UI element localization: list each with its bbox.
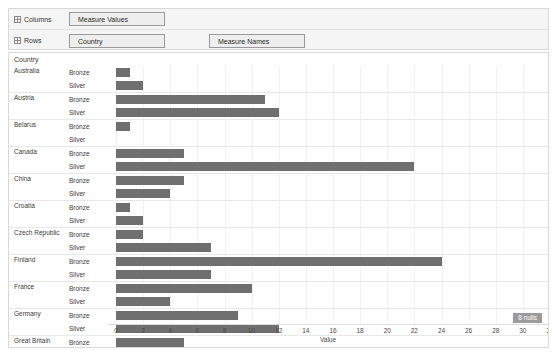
table-row[interactable]: AustraliaBronze xyxy=(9,66,548,79)
x-axis-tick: 26 xyxy=(465,327,472,334)
bar-mark[interactable] xyxy=(116,257,442,266)
bar-mark[interactable] xyxy=(116,297,170,306)
row-header-country[interactable]: Australia xyxy=(14,67,62,75)
row-header-measure[interactable]: Bronze xyxy=(69,258,105,265)
bar-cell xyxy=(108,282,548,295)
bar-cell xyxy=(108,106,548,119)
table-row[interactable]: Silver xyxy=(9,160,548,173)
bar-mark[interactable] xyxy=(116,162,414,171)
table-row[interactable]: Silver xyxy=(9,295,548,308)
row-header-measure[interactable]: Bronze xyxy=(69,231,105,238)
rows-shelf[interactable]: Rows Country Measure Names xyxy=(9,30,548,51)
table-row[interactable]: CanadaBronze xyxy=(9,147,548,160)
row-header-country[interactable]: Croatia xyxy=(14,202,62,210)
table-row[interactable]: Silver xyxy=(9,106,548,119)
table-row[interactable]: Silver xyxy=(9,241,548,254)
bar-cell xyxy=(108,147,548,160)
bar-mark[interactable] xyxy=(116,149,184,158)
x-axis-tick: 24 xyxy=(438,327,445,334)
bar-mark[interactable] xyxy=(116,284,252,293)
x-axis-tick: 12 xyxy=(275,327,282,334)
table-row[interactable]: Silver xyxy=(9,79,548,92)
x-axis-tick: 28 xyxy=(492,327,499,334)
country-group: CroatiaBronzeSilver xyxy=(9,201,548,228)
table-row[interactable]: CroatiaBronze xyxy=(9,201,548,214)
row-header-country[interactable]: France xyxy=(14,283,62,291)
pill-measure-values[interactable]: Measure Values xyxy=(69,12,165,26)
bar-mark[interactable] xyxy=(116,270,211,279)
x-axis-tick: 14 xyxy=(302,327,309,334)
bar-cell xyxy=(108,79,548,92)
bar-mark[interactable] xyxy=(116,122,130,131)
bar-cell xyxy=(108,187,548,200)
row-header-country[interactable]: Great Britain xyxy=(14,337,62,345)
pill-country[interactable]: Country xyxy=(69,34,165,48)
table-row[interactable]: ChinaBronze xyxy=(9,174,548,187)
table-row[interactable]: Silver xyxy=(9,268,548,281)
row-header-measure[interactable]: Bronze xyxy=(69,69,105,76)
table-row[interactable]: FranceBronze xyxy=(9,282,548,295)
bar-cell xyxy=(108,214,548,227)
country-group: CanadaBronzeSilver xyxy=(9,147,548,174)
row-header-measure[interactable]: Silver xyxy=(69,109,105,116)
country-group: ChinaBronzeSilver xyxy=(9,174,548,201)
bar-mark[interactable] xyxy=(116,216,143,225)
row-header-country[interactable]: Austria xyxy=(14,94,62,102)
table-row[interactable]: Silver xyxy=(9,133,548,146)
bar-mark[interactable] xyxy=(116,68,130,77)
bar-cell xyxy=(108,174,548,187)
x-axis-tick: 4 xyxy=(168,327,172,334)
row-header-measure[interactable]: Bronze xyxy=(69,96,105,103)
row-header-measure[interactable]: Silver xyxy=(69,298,105,305)
bar-mark[interactable] xyxy=(116,108,279,117)
bar-mark[interactable] xyxy=(116,95,265,104)
rows-shelf-text: Rows xyxy=(24,37,42,44)
x-axis-tick: 16 xyxy=(329,327,336,334)
row-header-measure[interactable]: Silver xyxy=(69,325,105,332)
status-badge-nulls[interactable]: 8 nulls xyxy=(513,313,542,323)
x-axis-tick: 32 xyxy=(546,327,549,334)
pill-measure-names[interactable]: Measure Names xyxy=(209,34,305,48)
table-row[interactable]: AustriaBronze xyxy=(9,93,548,106)
row-header-measure[interactable]: Silver xyxy=(69,244,105,251)
row-header-measure[interactable]: Silver xyxy=(69,217,105,224)
columns-shelf[interactable]: Columns Measure Values xyxy=(9,9,548,30)
row-header-country[interactable]: Finland xyxy=(14,256,62,264)
bar-mark[interactable] xyxy=(116,81,143,90)
table-row[interactable]: GermanyBronze xyxy=(9,309,548,322)
row-header-measure[interactable]: Bronze xyxy=(69,177,105,184)
row-header-measure[interactable]: Bronze xyxy=(69,204,105,211)
table-row[interactable]: FinlandBronze xyxy=(9,255,548,268)
country-group: FinlandBronzeSilver xyxy=(9,255,548,282)
bar-mark[interactable] xyxy=(116,176,184,185)
row-header-measure[interactable]: Bronze xyxy=(69,285,105,292)
bar-mark[interactable] xyxy=(116,243,211,252)
row-header-measure[interactable]: Bronze xyxy=(69,123,105,130)
x-axis-tick: 0 xyxy=(114,327,118,334)
country-group: AustraliaBronzeSilver xyxy=(9,66,548,93)
row-header-measure[interactable]: Silver xyxy=(69,163,105,170)
bar-mark[interactable] xyxy=(116,311,238,320)
row-header-measure[interactable]: Silver xyxy=(69,190,105,197)
row-header-country[interactable]: Belarus xyxy=(14,121,62,129)
row-header-measure[interactable]: Silver xyxy=(69,271,105,278)
row-header-measure[interactable]: Silver xyxy=(69,82,105,89)
country-group: AustriaBronzeSilver xyxy=(9,93,548,120)
row-header-country[interactable]: Czech Republic xyxy=(14,229,62,237)
row-header-country[interactable]: China xyxy=(14,175,62,183)
bar-mark[interactable] xyxy=(116,230,143,239)
bar-mark[interactable] xyxy=(116,203,130,212)
bar-cell xyxy=(108,268,548,281)
row-header-measure[interactable]: Silver xyxy=(69,136,105,143)
row-header-measure[interactable]: Bronze xyxy=(69,339,105,346)
row-header-measure[interactable]: Bronze xyxy=(69,312,105,319)
x-axis-tick: 8 xyxy=(223,327,227,334)
table-row[interactable]: Silver xyxy=(9,214,548,227)
row-header-country[interactable]: Germany xyxy=(14,310,62,318)
table-row[interactable]: Czech RepublicBronze xyxy=(9,228,548,241)
table-row[interactable]: BelarusBronze xyxy=(9,120,548,133)
bar-mark[interactable] xyxy=(116,189,170,198)
row-header-country[interactable]: Canada xyxy=(14,148,62,156)
row-header-measure[interactable]: Bronze xyxy=(69,150,105,157)
table-row[interactable]: Silver xyxy=(9,187,548,200)
